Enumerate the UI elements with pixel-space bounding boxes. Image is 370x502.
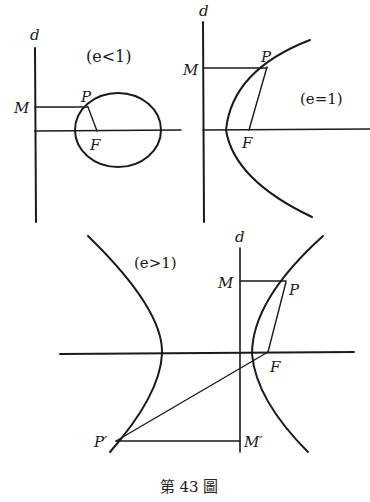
axis-line xyxy=(60,352,354,354)
label-f: F xyxy=(269,358,281,376)
label-p-prime: P′ xyxy=(93,433,108,451)
axis-line xyxy=(35,130,181,131)
label-f: F xyxy=(89,136,101,154)
label-d: d xyxy=(30,26,40,44)
label-p: P xyxy=(288,281,300,299)
figure-caption: 第 43 圖 xyxy=(160,478,219,496)
parabola-curve xyxy=(226,40,312,217)
axis-line xyxy=(203,129,370,130)
segment-fp-prime xyxy=(116,352,268,441)
condition-label: (e<1) xyxy=(86,47,132,66)
label-d: d xyxy=(199,2,209,20)
segment-pf xyxy=(88,107,97,131)
parabola-panel xyxy=(203,22,370,222)
label-p: P xyxy=(260,48,272,66)
label-m: M xyxy=(182,61,199,79)
directrix-line xyxy=(35,48,36,222)
label-m: M xyxy=(13,99,30,117)
segment-pf xyxy=(268,282,286,352)
label-p: P xyxy=(80,88,92,106)
conic-sections-figure: d (e<1) M P F d M P (e=1) F d (e>1) M P … xyxy=(0,0,370,502)
ellipse-panel xyxy=(35,48,181,222)
condition-label: (e=1) xyxy=(300,90,343,108)
label-m: M xyxy=(217,274,234,292)
directrix-line xyxy=(203,22,204,222)
condition-label: (e>1) xyxy=(134,254,177,272)
hyperbola-panel xyxy=(60,236,354,452)
hyperbola-right-branch xyxy=(252,236,323,452)
label-m-prime: M′ xyxy=(243,433,263,451)
label-f: F xyxy=(241,134,253,152)
label-d: d xyxy=(235,228,245,246)
